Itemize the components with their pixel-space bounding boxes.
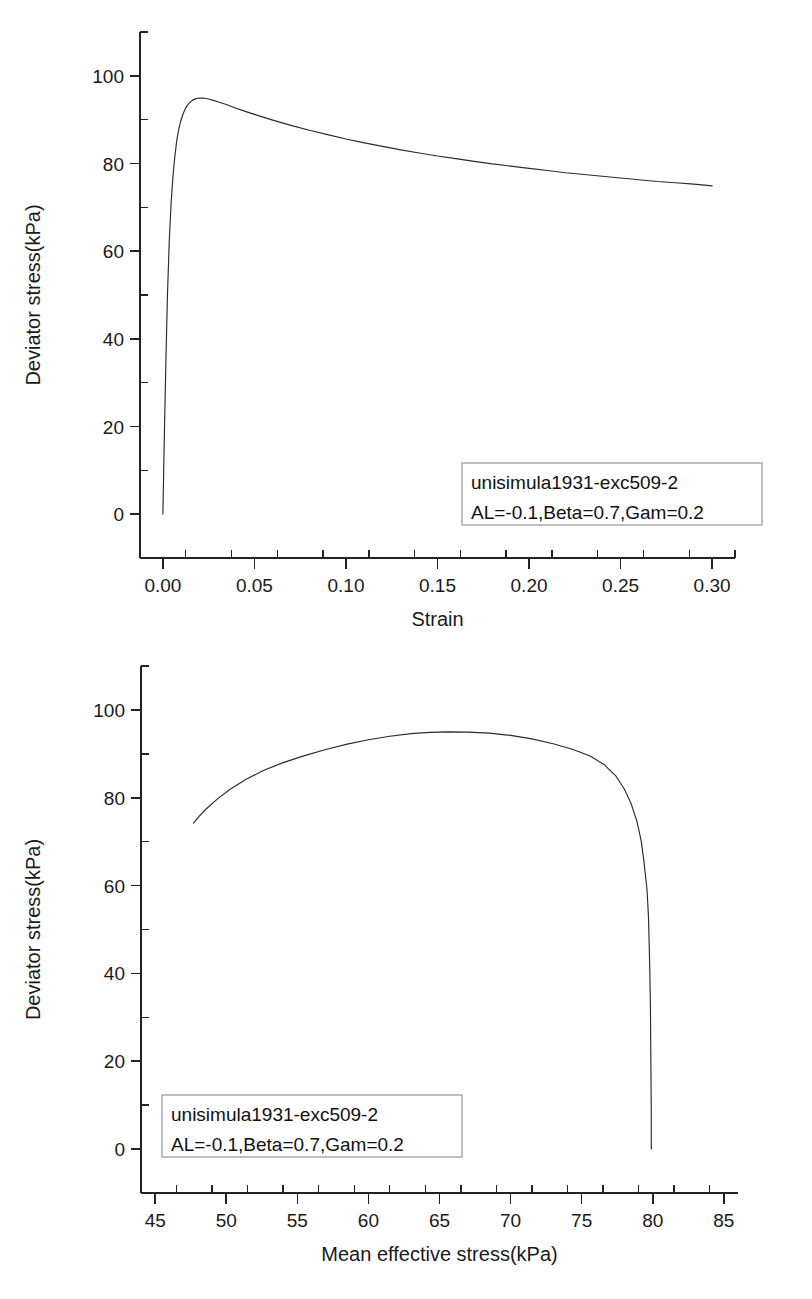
annotation-line-2: AL=-0.1,Beta=0.7,Gam=0.2: [171, 1134, 404, 1155]
x-axis-title: Strain: [411, 608, 463, 630]
annotation-box: unisimula1931-exc509-2AL=-0.1,Beta=0.7,G…: [162, 1095, 462, 1157]
x-tick-label: 0.05: [236, 575, 273, 596]
chart-stress-path: 020406080100455055606570758085Mean effec…: [0, 640, 812, 1299]
x-tick-label: 0.25: [602, 575, 639, 596]
data-series-1: [163, 98, 712, 514]
y-tick-label: 20: [103, 417, 124, 438]
y-tick-label: 100: [93, 700, 125, 721]
x-tick-label: 50: [216, 1210, 237, 1231]
x-tick-label: 65: [429, 1210, 450, 1231]
annotation-line-1: unisimula1931-exc509-2: [471, 472, 678, 493]
annotation-line-2: AL=-0.1,Beta=0.7,Gam=0.2: [471, 502, 704, 523]
chart-stress-strain: 0204060801000.000.050.100.150.200.250.30…: [0, 0, 812, 650]
stress-path-plot: 020406080100455055606570758085Mean effec…: [0, 640, 812, 1299]
y-tick-label: 20: [104, 1051, 125, 1072]
data-series-1: [194, 732, 652, 1149]
y-tick-label: 80: [104, 788, 125, 809]
x-tick-label: 55: [287, 1210, 308, 1231]
y-tick-label: 60: [103, 241, 124, 262]
y-axis-title: Deviator stress(kPa): [22, 839, 44, 1020]
x-tick-label: 85: [713, 1210, 734, 1231]
x-tick-label: 80: [642, 1210, 663, 1231]
x-tick-label: 60: [358, 1210, 379, 1231]
y-tick-label: 100: [92, 66, 124, 87]
y-tick-label: 80: [103, 154, 124, 175]
y-tick-label: 0: [113, 504, 124, 525]
stress-strain-plot: 0204060801000.000.050.100.150.200.250.30…: [0, 0, 812, 650]
x-tick-label: 0.00: [144, 575, 181, 596]
y-tick-label: 40: [103, 329, 124, 350]
y-tick-label: 40: [104, 963, 125, 984]
x-tick-label: 0.10: [327, 575, 364, 596]
annotation-box: unisimula1931-exc509-2AL=-0.1,Beta=0.7,G…: [462, 463, 762, 525]
x-tick-label: 75: [571, 1210, 592, 1231]
figure-page: 0204060801000.000.050.100.150.200.250.30…: [0, 0, 812, 1299]
x-tick-label: 45: [145, 1210, 166, 1231]
y-axis-title: Deviator stress(kPa): [22, 204, 44, 385]
y-tick-label: 60: [104, 876, 125, 897]
x-axis-title: Mean effective stress(kPa): [321, 1243, 557, 1265]
annotation-line-1: unisimula1931-exc509-2: [171, 1104, 378, 1125]
x-tick-label: 0.30: [694, 575, 731, 596]
x-tick-label: 0.20: [511, 575, 548, 596]
x-tick-label: 0.15: [419, 575, 456, 596]
x-tick-label: 70: [500, 1210, 521, 1231]
y-tick-label: 0: [114, 1139, 125, 1160]
